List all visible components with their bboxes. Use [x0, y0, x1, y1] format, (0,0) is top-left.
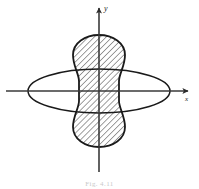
figure-caption: Fig. 4.11: [0, 180, 199, 188]
y-axis-label: y: [103, 4, 108, 13]
hatch-fill: [60, 25, 140, 165]
x-axis-label: x: [184, 95, 189, 103]
coordinate-figure: y x: [0, 0, 199, 189]
figure-container: y x Fig. 4.11: [0, 0, 199, 189]
hatched-region: [60, 25, 140, 165]
